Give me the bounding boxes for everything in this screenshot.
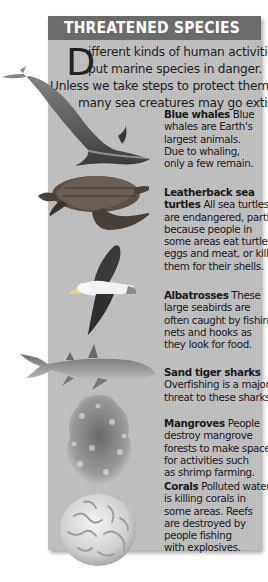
entry-title: turtles: [164, 198, 200, 210]
entry-text: forests to make space: [164, 442, 264, 454]
entry-text: are endangered, partly: [164, 211, 264, 223]
entry-corals: Corals Polluted water is killing corals …: [164, 480, 264, 554]
entry-title: Sand tiger sharks: [164, 366, 261, 378]
entry-text: some areas eat turtle: [164, 235, 264, 247]
entry-text: These: [231, 289, 260, 301]
entry-text: Due to whaling,: [164, 145, 264, 157]
entry-albatrosses: Albatrosses These large seabirds are oft…: [164, 289, 264, 350]
entry-text: whales are Earth's: [164, 120, 264, 132]
entry-text: Overfishing is a major: [164, 378, 264, 390]
entry-mangroves: Mangroves People destroy mangrove forest…: [164, 417, 264, 478]
entry-text: some areas. Reefs: [164, 505, 264, 517]
entry-blue-whales: Blue whales Blue whales are Earth's larg…: [164, 108, 264, 169]
mangrove-image: [62, 392, 138, 488]
entry-text: Blue: [233, 108, 254, 120]
albatross-image: [58, 242, 140, 338]
entry-text: is killing corals in: [164, 492, 264, 504]
entry-text: often caught by fishing: [164, 314, 264, 326]
entry-text: threat to these sharks.: [164, 391, 264, 403]
entry-title: Albatrosses: [164, 289, 228, 301]
entry-title: Corals: [164, 480, 198, 492]
entry-text: only a few remain.: [164, 157, 264, 169]
entry-leatherback-turtles: Leatherback sea turtles All sea turtles …: [164, 186, 264, 272]
entry-title: Blue whales: [164, 108, 230, 120]
entry-text: All sea turtles: [203, 198, 268, 210]
entry-text: people fishing: [164, 529, 264, 541]
sea-turtle-image: [34, 172, 149, 236]
entry-text: Polluted water: [201, 480, 268, 492]
entry-sand-tiger-sharks: Sand tiger sharks Overfishing is a major…: [164, 366, 264, 403]
entry-text: because people in: [164, 223, 264, 235]
entry-text: as shrimp farming.: [164, 466, 264, 478]
coral-image: [58, 492, 140, 570]
panel-title: THREATENED SPECIES: [64, 19, 240, 37]
entry-text: with explosives.: [164, 541, 264, 553]
entry-text: are destroyed by: [164, 517, 264, 529]
entry-text: nets and hooks as: [164, 326, 264, 338]
panel-header: THREATENED SPECIES: [48, 16, 261, 40]
entry-text: eggs and meat, or kill: [164, 247, 264, 259]
entry-text: large seabirds are: [164, 301, 264, 313]
entry-title: Mangroves: [164, 417, 225, 429]
entry-title: Leatherback sea: [164, 186, 254, 198]
entry-text: destroy mangrove: [164, 429, 264, 441]
entry-text: People: [228, 417, 260, 429]
entry-text: they look for food.: [164, 338, 264, 350]
entry-text: largest animals.: [164, 133, 264, 145]
entry-text: them for their shells.: [164, 260, 264, 272]
blue-whale-image: [0, 62, 155, 172]
entry-text: for activities such: [164, 454, 264, 466]
shark-image: [18, 342, 158, 392]
